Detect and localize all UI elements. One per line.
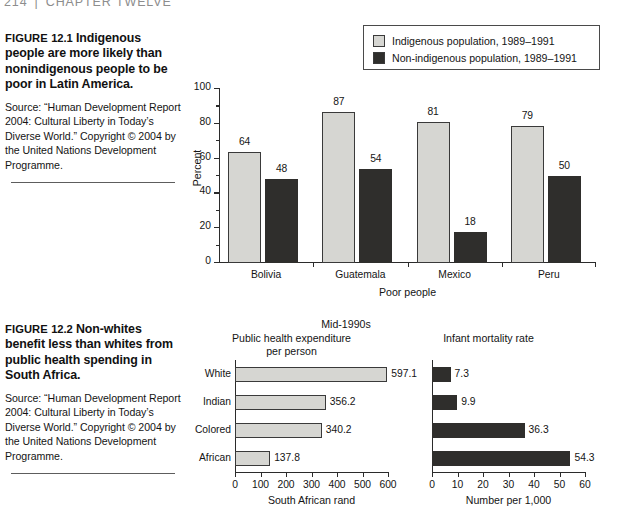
legend-swatch-light-icon [373,35,385,47]
x-tick [337,472,338,477]
running-head-separator: | [35,0,39,9]
bar-value-label: 356.2 [330,396,356,407]
category-label: African [191,452,231,463]
x-tick-label: 30 [495,479,523,490]
x-tick-label: 100 [247,479,275,490]
bar-value-label: 9.9 [461,396,475,407]
x-tick-label: 60 [571,479,599,490]
caption-rule [11,473,175,474]
bar [432,451,570,466]
bar [432,395,457,410]
bar-value-label: 50 [548,160,581,171]
x-tick-label: 300 [298,479,326,490]
figure-12-2-caption: FIGURE 12.2 Non-whites benefit less than… [5,322,181,482]
page-number: 214 [4,0,28,9]
y-tick-label: 40 [185,185,211,196]
legend-item-indigenous: Indigenous population, 1989–1991 [373,32,599,49]
x-tick [534,472,535,477]
y-tick-label: 20 [185,220,211,231]
bar-value-label: 79 [511,110,544,121]
x-category-label: Peru [502,269,596,280]
bar-value-label: 7.3 [455,368,469,379]
bar [228,152,261,263]
panel-title-line1: Public health expenditure [185,332,398,344]
bar [511,126,544,263]
caption-rule [11,182,175,183]
figure-12-2-overall-title: Mid-1990s [286,318,406,330]
x-tick-label: 0 [221,479,249,490]
y-tick-major [214,158,219,159]
bar-value-label: 87 [322,96,355,107]
figure-12-2-panel-mortality: Infant mortality rate 7.39.936.354.3 010… [420,332,605,502]
y-tick-label: 80 [185,116,211,127]
legend-label-non-indigenous: Non-indigenous population, 1989–1991 [392,52,577,64]
figure-12-1-legend: Indigenous population, 1989–1991 Non-ind… [363,25,600,70]
x-tick-label: 40 [520,479,548,490]
figure-word: FIGURE [5,32,48,44]
x-tick [458,472,459,477]
x-tick [313,262,314,267]
x-tick-label: 200 [272,479,300,490]
y-tick-major [214,88,219,89]
bar-value-label: 137.8 [274,452,300,463]
bar [235,423,322,438]
y-axis-line [219,88,220,263]
y-tick-label: 0 [185,255,211,266]
figure-12-2-panel-expenditure: Public health expenditure per person 597… [191,332,401,502]
legend-label-indigenous: Indigenous population, 1989–1991 [392,35,555,47]
category-label: Indian [191,396,231,407]
y-tick-minor [216,210,219,211]
x-tick-label: 10 [444,479,472,490]
panel-title-line1: Infant mortality rate [382,332,595,344]
bar-value-label: 48 [265,163,298,174]
figure-12-2-source: Source: “Human Development Report 2004: … [5,391,181,464]
x-tick [408,262,409,267]
bar [548,176,581,263]
category-label: Colored [191,424,231,435]
bar-value-label: 597.1 [391,368,417,379]
figure-word: FIGURE [5,323,48,335]
x-tick [312,472,313,477]
bar [235,451,270,466]
legend-swatch-dark-icon [373,52,385,64]
figure-number: 12.2 [51,323,72,335]
y-tick-major [214,192,219,193]
bar [265,179,298,263]
y-tick-major [214,123,219,124]
bar [235,395,326,410]
y-tick-label: 60 [185,151,211,162]
bar-value-label: 18 [454,216,487,227]
running-head: 214|CHAPTER TWELVE [4,0,304,11]
bar [359,169,392,263]
x-tick-label: 0 [418,479,446,490]
bar-value-label: 81 [417,106,450,117]
bar-value-label: 54 [359,153,392,164]
x-category-label: Mexico [408,269,502,280]
bar [235,367,387,382]
x-category-label: Guatemala [313,269,407,280]
y-tick-minor [216,140,219,141]
x-tick [363,472,364,477]
y-tick-major [214,227,219,228]
x-tick [483,472,484,477]
x-tick-label: 400 [323,479,351,490]
y-tick-label: 100 [185,81,211,92]
x-tick-label: 20 [469,479,497,490]
panel-title-line2: per person [185,345,398,357]
y-tick-minor [216,175,219,176]
y-tick-minor [216,105,219,106]
bar [417,122,450,263]
bar [322,112,355,263]
bar-value-label: 54.3 [574,452,594,463]
x-tick [509,472,510,477]
category-label: White [191,368,231,379]
chapter-title: CHAPTER TWELVE [46,0,172,9]
bar-value-label: 64 [228,136,261,147]
bar-value-label: 340.2 [326,424,352,435]
y-tick-minor [216,245,219,246]
x-tick [261,472,262,477]
x-tick [388,472,389,477]
figure-number: 12.1 [51,32,72,44]
figure-12-1-caption-title: FIGURE 12.1 Indigenous people are more l… [5,31,181,93]
figure-12-1-caption: FIGURE 12.1 Indigenous people are more l… [5,31,181,191]
